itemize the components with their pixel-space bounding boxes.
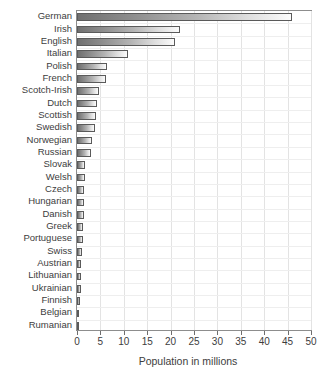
bar-row bbox=[77, 297, 313, 305]
x-axis-tick bbox=[194, 331, 195, 335]
category-label: Lithuanian bbox=[0, 270, 72, 280]
bar bbox=[77, 75, 106, 83]
bar-row bbox=[77, 285, 313, 293]
bar bbox=[77, 236, 83, 244]
category-axis-labels: GermanIrishEnglishItalianPolishFrenchSco… bbox=[0, 10, 72, 331]
bar-row bbox=[77, 13, 313, 21]
bar-row bbox=[77, 199, 313, 207]
x-axis-tick-label: 45 bbox=[282, 336, 293, 348]
category-label: Greek bbox=[0, 221, 72, 231]
bar bbox=[77, 13, 292, 21]
bar bbox=[77, 149, 91, 157]
category-label: German bbox=[0, 11, 72, 21]
bar bbox=[77, 26, 180, 34]
x-axis-tick-label: 35 bbox=[235, 336, 246, 348]
bar bbox=[77, 260, 81, 268]
bar bbox=[77, 124, 95, 132]
bar-row bbox=[77, 260, 313, 268]
bar-row bbox=[77, 236, 313, 244]
x-axis-tick-label: 0 bbox=[74, 336, 80, 348]
x-axis-tick bbox=[100, 331, 101, 335]
bar-series bbox=[77, 11, 311, 330]
category-label: Norwegian bbox=[0, 135, 72, 145]
category-label: English bbox=[0, 36, 72, 46]
x-axis-tick bbox=[311, 331, 312, 335]
category-label: Rumanian bbox=[0, 320, 72, 330]
bar-row bbox=[77, 63, 313, 71]
x-axis: 05101520253035404550 bbox=[76, 331, 312, 353]
x-axis-tick bbox=[217, 331, 218, 335]
category-label: Czech bbox=[0, 184, 72, 194]
bar-chart: GermanIrishEnglishItalianPolishFrenchSco… bbox=[0, 0, 324, 379]
bar-row bbox=[77, 322, 313, 330]
category-label: Hungarian bbox=[0, 196, 72, 206]
x-axis-tick bbox=[77, 331, 78, 335]
x-axis-tick bbox=[147, 331, 148, 335]
bar bbox=[77, 199, 84, 207]
bar-row bbox=[77, 87, 313, 95]
bar bbox=[77, 161, 85, 169]
bar-row bbox=[77, 161, 313, 169]
bar bbox=[77, 63, 107, 71]
category-label: French bbox=[0, 73, 72, 83]
category-label: Welsh bbox=[0, 172, 72, 182]
x-axis-tick-label: 40 bbox=[259, 336, 270, 348]
bar-row bbox=[77, 273, 313, 281]
category-label: Swedish bbox=[0, 122, 72, 132]
bar-row bbox=[77, 124, 313, 132]
x-axis-title: Population in millions bbox=[0, 355, 324, 367]
bar bbox=[77, 273, 81, 281]
x-axis-tick bbox=[241, 331, 242, 335]
x-axis-tick bbox=[288, 331, 289, 335]
bar-row bbox=[77, 75, 313, 83]
bar bbox=[77, 248, 82, 256]
category-label: Italian bbox=[0, 48, 72, 58]
plot-area bbox=[76, 10, 312, 331]
x-axis-tick bbox=[264, 331, 265, 335]
category-label: Austrian bbox=[0, 258, 72, 268]
bar bbox=[77, 186, 84, 194]
category-label: Scottish bbox=[0, 110, 72, 120]
x-axis-tick-label: 5 bbox=[98, 336, 104, 348]
bar-row bbox=[77, 310, 313, 318]
vertical-gridline bbox=[311, 11, 312, 330]
bar bbox=[77, 50, 128, 58]
category-label: Polish bbox=[0, 61, 72, 71]
x-axis-title-label: Population in millions bbox=[87, 355, 238, 367]
category-label: Danish bbox=[0, 209, 72, 219]
x-axis-tick bbox=[124, 331, 125, 335]
x-axis-tick-label: 50 bbox=[305, 336, 316, 348]
bar-row bbox=[77, 50, 313, 58]
bar-row bbox=[77, 149, 313, 157]
bar-row bbox=[77, 186, 313, 194]
x-axis-tick-label: 25 bbox=[188, 336, 199, 348]
bar-row bbox=[77, 100, 313, 108]
category-label: Irish bbox=[0, 24, 72, 34]
category-label: Belgian bbox=[0, 307, 72, 317]
bar-row bbox=[77, 38, 313, 46]
category-label: Ukrainian bbox=[0, 283, 72, 293]
bar-row bbox=[77, 223, 313, 231]
bar-row bbox=[77, 26, 313, 34]
x-axis-tick-label: 30 bbox=[212, 336, 223, 348]
category-label: Scotch-Irish bbox=[0, 85, 72, 95]
bar-row bbox=[77, 174, 313, 182]
bar bbox=[77, 310, 79, 318]
bar bbox=[77, 112, 96, 120]
bar bbox=[77, 38, 175, 46]
bar-row bbox=[77, 248, 313, 256]
category-label: Slovak bbox=[0, 159, 72, 169]
x-axis-tick bbox=[171, 331, 172, 335]
category-label: Dutch bbox=[0, 98, 72, 108]
bar bbox=[77, 174, 85, 182]
bar bbox=[77, 223, 83, 231]
category-label: Russian bbox=[0, 147, 72, 157]
category-label: Portuguese bbox=[0, 233, 72, 243]
x-axis-tick-label: 10 bbox=[118, 336, 129, 348]
bar bbox=[77, 297, 80, 305]
bar bbox=[77, 100, 97, 108]
bar bbox=[77, 87, 99, 95]
bar-row bbox=[77, 211, 313, 219]
x-axis-tick-label: 15 bbox=[142, 336, 153, 348]
category-label: Swiss bbox=[0, 246, 72, 256]
